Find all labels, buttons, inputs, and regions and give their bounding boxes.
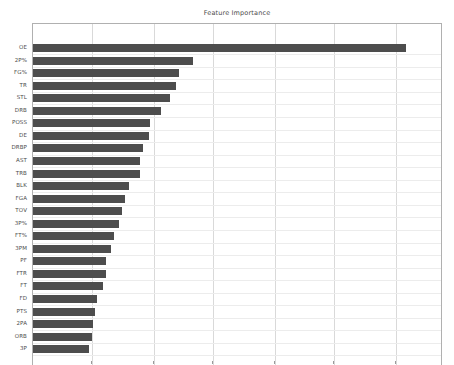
y-tick-label-ft: FT bbox=[20, 282, 27, 288]
plot-area bbox=[32, 23, 442, 365]
y-tick-label-poss: POSS bbox=[12, 119, 27, 125]
bar-ft- bbox=[33, 232, 114, 240]
y-tick-label-fga: FGA bbox=[16, 195, 28, 201]
y-tick-label-pf: PF bbox=[20, 257, 27, 263]
y-tick-label-blk: BLK bbox=[16, 182, 27, 188]
y-tick-label-fg-: FG% bbox=[14, 69, 27, 75]
x-tick-mark-2 bbox=[212, 361, 213, 364]
y-tick-label-trb: TRB bbox=[16, 170, 27, 176]
bar-fd bbox=[33, 295, 97, 303]
bar-ft bbox=[33, 282, 103, 290]
y-tick-label-2pa: 2PA bbox=[16, 320, 27, 326]
bar-3p bbox=[33, 345, 89, 353]
bar-stl bbox=[33, 94, 170, 102]
y-tick-label-ast: AST bbox=[16, 157, 27, 163]
x-tick-mark-3 bbox=[274, 361, 275, 364]
bar-ast bbox=[33, 157, 140, 165]
bar-pts bbox=[33, 308, 95, 316]
x-tick-mark-5 bbox=[395, 361, 396, 364]
bar-oe bbox=[33, 44, 406, 52]
bar-ftr bbox=[33, 270, 106, 278]
y-tick-label-drb: DRB bbox=[15, 107, 27, 113]
bar-blk bbox=[33, 182, 129, 190]
y-axis-tick-labels: OE2P%FG%TRSTLDRBPOSSDEDRBPASTTRBBLKFGATO… bbox=[0, 23, 30, 365]
y-tick-label-3p: 3P bbox=[20, 345, 27, 351]
bar-2pa bbox=[33, 320, 93, 328]
y-tick-label-fd: FD bbox=[19, 295, 27, 301]
y-tick-label-tov: TOV bbox=[15, 207, 27, 213]
y-tick-label-ftr: FTR bbox=[16, 270, 27, 276]
bar-drbp bbox=[33, 144, 143, 152]
y-tick-label-oe: OE bbox=[19, 44, 27, 50]
y-tick-label-3p-: 3P% bbox=[15, 220, 27, 226]
bar-orb bbox=[33, 333, 92, 341]
bar-tr bbox=[33, 82, 176, 90]
bar-3pm bbox=[33, 245, 111, 253]
bar-trb bbox=[33, 170, 140, 178]
x-tick-mark-1 bbox=[153, 361, 154, 364]
y-tick-label-stl: STL bbox=[17, 94, 27, 100]
bar-poss bbox=[33, 119, 150, 127]
y-tick-label-drbp: DRBP bbox=[11, 144, 27, 150]
bar-drb bbox=[33, 107, 161, 115]
bar-fga bbox=[33, 195, 125, 203]
bar-2p- bbox=[33, 57, 193, 65]
y-tick-label-de: DE bbox=[19, 132, 27, 138]
y-tick-label-pts: PTS bbox=[17, 308, 27, 314]
bar-fg- bbox=[33, 69, 179, 77]
y-tick-label-2p-: 2P% bbox=[15, 57, 27, 63]
y-tick-label-3pm: 3PM bbox=[15, 245, 27, 251]
y-tick-label-orb: ORB bbox=[15, 333, 27, 339]
bar-tov bbox=[33, 207, 122, 215]
y-tick-label-ft-: FT% bbox=[15, 232, 27, 238]
chart-title: Feature Importance bbox=[32, 9, 442, 17]
x-tick-mark-4 bbox=[333, 361, 334, 364]
bar-pf bbox=[33, 257, 106, 265]
bar-series bbox=[33, 24, 441, 365]
bar-de bbox=[33, 132, 149, 140]
bar-3p- bbox=[33, 220, 119, 228]
x-tick-mark-0 bbox=[91, 361, 92, 364]
y-tick-label-tr: TR bbox=[20, 82, 27, 88]
